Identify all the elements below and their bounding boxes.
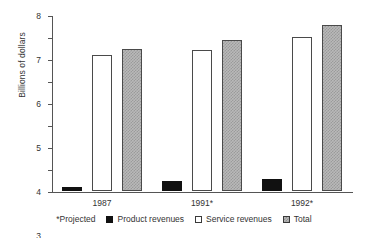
legend-footnote: *Projected (56, 214, 95, 224)
chart-legend: *Projected Product revenuesService reven… (0, 214, 368, 224)
legend-label: Service revenues (206, 214, 272, 224)
legend-item: Total (283, 214, 312, 224)
bar (92, 55, 112, 191)
bar-group (62, 15, 142, 191)
y-tick: 1 (48, 170, 52, 171)
y-tick: 7 (48, 38, 52, 39)
y-tick-label: 6 (36, 100, 41, 109)
bar (262, 179, 282, 191)
bar (62, 187, 82, 191)
bar-group (262, 15, 342, 191)
y-tick: 0 (48, 192, 52, 193)
legend-label: Product revenues (117, 214, 184, 224)
legend-item-list: Product revenuesService revenuesTotal (106, 214, 311, 224)
y-axis-line (52, 16, 53, 193)
black-square-icon (106, 216, 113, 223)
white-square-icon (195, 216, 202, 223)
bar (292, 37, 312, 191)
y-tick-label: 7 (36, 56, 41, 65)
plot-area: 012345678 19871991*1992* (52, 16, 352, 192)
bar (222, 40, 242, 191)
y-axis-title: Billions of dollars (17, 10, 27, 120)
x-axis-label: 1991* (162, 198, 242, 208)
y-tick-label: 5 (36, 144, 41, 153)
bar (162, 181, 182, 191)
y-tick: 4 (48, 104, 52, 105)
y-tick: 5 (48, 82, 52, 83)
y-tick-label: 8 (36, 12, 41, 21)
y-tick: 2 (48, 148, 52, 149)
bar-chart: Billions of dollars 012345678 19871991*1… (0, 0, 368, 238)
bar (192, 50, 212, 191)
legend-item: Service revenues (195, 214, 272, 224)
bar-group (162, 15, 242, 191)
x-axis-label: 1987 (62, 198, 142, 208)
legend-item: Product revenues (106, 214, 184, 224)
gray-hatched-square-icon (283, 216, 290, 223)
x-axis-line (52, 192, 353, 193)
y-tick-label: 3 (36, 232, 41, 238)
y-tick: 8 (48, 16, 52, 17)
bar (122, 49, 142, 191)
y-tick: 3 (48, 126, 52, 127)
bar (322, 25, 342, 191)
legend-label: Total (294, 214, 312, 224)
y-tick-label: 4 (36, 188, 41, 197)
y-tick: 6 (48, 60, 52, 61)
x-axis-label: 1992* (262, 198, 342, 208)
